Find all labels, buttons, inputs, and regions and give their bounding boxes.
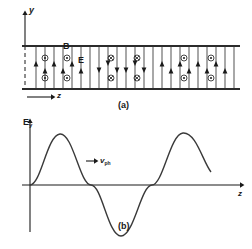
ey-axis-label-panel-b: Ey — [23, 118, 32, 127]
panel-b-caption: (b) — [118, 222, 130, 231]
phase-velocity-label-subscript: ph — [104, 160, 110, 166]
e-arrowheads-up-right — [160, 61, 228, 73]
panel-a-caption: (a) — [118, 101, 129, 110]
ey-axis-label-subscript: y — [29, 122, 32, 128]
z-axis-label-panel-a: z — [57, 92, 61, 100]
panel-a-group — [22, 13, 240, 97]
e-arrowheads-up-left — [34, 61, 84, 73]
electric-field-label: E — [78, 56, 84, 65]
phase-velocity-label: vph — [100, 157, 111, 165]
magnetic-field-label: B — [63, 42, 70, 51]
figure-svg — [0, 0, 252, 249]
e-arrowheads-down-middle — [97, 61, 147, 73]
y-axis-label-panel-a: y — [29, 6, 34, 15]
e-field-lines — [36, 46, 234, 89]
z-axis-label-panel-b: z — [238, 190, 242, 198]
panel-b-group — [22, 121, 242, 236]
figure-container: y z B E (a) Ey vph z (b) — [0, 0, 252, 249]
